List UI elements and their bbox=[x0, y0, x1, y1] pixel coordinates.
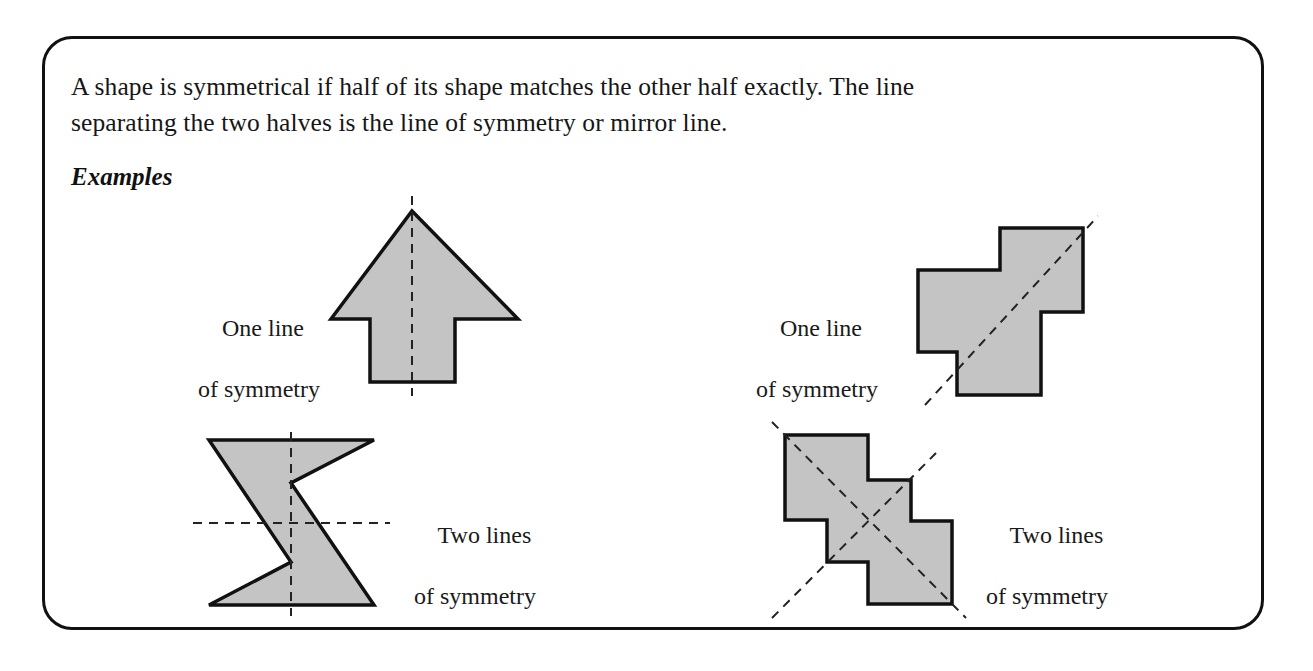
label-bowtie-line-2: of symmetry bbox=[414, 581, 536, 612]
label-bowtie-line-1: Two lines bbox=[438, 522, 532, 548]
definition-line-1: A shape is symmetrical if half of its sh… bbox=[71, 69, 1171, 105]
label-step-bottom-right-symmetry: Two lines of symmetry bbox=[986, 489, 1108, 671]
label-arrow-line-1: One line bbox=[222, 315, 304, 341]
definition-text: A shape is symmetrical if half of its sh… bbox=[71, 69, 1171, 141]
label-arrow-symmetry: One line of symmetry bbox=[198, 282, 320, 466]
examples-heading: Examples bbox=[71, 163, 172, 191]
label-step-top-right-line-2: of symmetry bbox=[756, 374, 878, 405]
label-step-bottom-right-line-1: Two lines bbox=[1010, 522, 1104, 548]
label-step-top-right-symmetry: One line of symmetry bbox=[756, 282, 878, 466]
label-bowtie-symmetry: Two lines of symmetry bbox=[414, 489, 536, 671]
label-step-bottom-right-line-2: of symmetry bbox=[986, 581, 1108, 612]
label-step-top-right-line-1: One line bbox=[780, 315, 862, 341]
label-arrow-line-2: of symmetry bbox=[198, 374, 320, 405]
definition-line-2: separating the two halves is the line of… bbox=[71, 105, 1171, 141]
worksheet-page: A shape is symmetrical if half of its sh… bbox=[0, 0, 1313, 671]
